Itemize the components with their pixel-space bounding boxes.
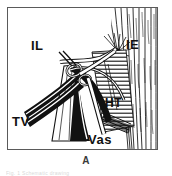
panel-caption-letter: A <box>0 155 172 166</box>
cutoff-caption-text: Fig. 1 Schematic drawing <box>6 170 166 176</box>
label-il: IL <box>31 39 44 52</box>
label-ht: HT <box>105 97 122 109</box>
anatomical-line-drawing-icon <box>8 8 157 149</box>
figure-root: IL IE TV HT Vas A Fig. 1 Schematic drawi… <box>0 0 172 176</box>
label-tv: TV <box>12 115 30 128</box>
label-ie: IE <box>126 38 139 51</box>
illustration-panel <box>7 7 158 150</box>
label-vas: Vas <box>88 133 112 146</box>
